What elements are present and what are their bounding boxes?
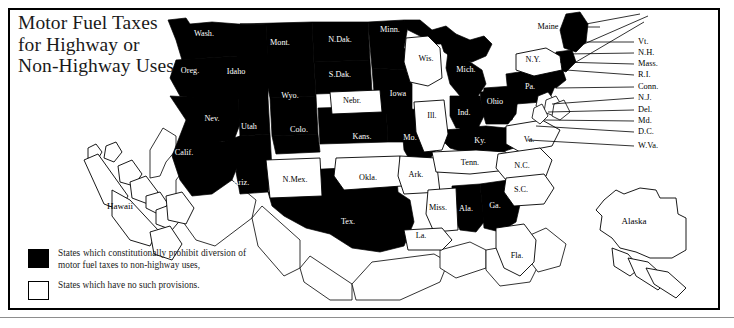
legend-label-no-provision: States which have no such provisions. bbox=[58, 280, 246, 292]
svg-text:Calif.: Calif. bbox=[175, 148, 193, 157]
svg-text:Mo.: Mo. bbox=[403, 133, 416, 142]
svg-text:Nev.: Nev. bbox=[204, 114, 219, 123]
svg-text:Tenn.: Tenn. bbox=[461, 158, 479, 167]
svg-text:N.H.: N.H. bbox=[638, 48, 654, 57]
callout-labels: Vt. N.H. Mass. R.I. Conn. N.J. Del. Md. … bbox=[638, 37, 658, 150]
svg-text:N.Mex.: N.Mex. bbox=[282, 175, 307, 184]
legend-swatch-black bbox=[28, 249, 49, 268]
svg-text:Wash.: Wash. bbox=[194, 29, 214, 38]
svg-text:Vt.: Vt. bbox=[638, 37, 648, 46]
svg-text:Miss.: Miss. bbox=[429, 203, 447, 212]
legend-row-prohibit: States which constitutionally prohibit d… bbox=[28, 248, 258, 271]
svg-text:R.I.: R.I. bbox=[638, 70, 651, 79]
svg-text:Md.: Md. bbox=[638, 116, 652, 125]
svg-text:N.J.: N.J. bbox=[638, 93, 652, 102]
svg-text:Mich.: Mich. bbox=[456, 65, 475, 74]
svg-text:Ill.: Ill. bbox=[427, 111, 436, 120]
svg-text:Conn.: Conn. bbox=[638, 82, 658, 91]
svg-text:Ark.: Ark. bbox=[409, 170, 424, 179]
svg-text:Ohio: Ohio bbox=[487, 97, 503, 106]
svg-text:Fla.: Fla. bbox=[511, 251, 524, 260]
legend-label-prohibit: States which constitutionally prohibit d… bbox=[58, 248, 246, 271]
svg-text:W.Va.: W.Va. bbox=[638, 141, 658, 150]
svg-text:Nebr.: Nebr. bbox=[343, 96, 361, 105]
svg-text:Mass.: Mass. bbox=[638, 59, 658, 68]
map-legend: States which constitutionally prohibit d… bbox=[28, 248, 258, 309]
svg-text:Del.: Del. bbox=[638, 105, 652, 114]
svg-text:Oreg.: Oreg. bbox=[181, 66, 199, 75]
alaska-label: Alaska bbox=[622, 216, 647, 226]
title-line-1: Motor Fuel Taxes bbox=[18, 12, 178, 34]
svg-text:Iowa: Iowa bbox=[390, 89, 407, 98]
svg-text:Pa.: Pa. bbox=[525, 82, 535, 91]
svg-text:Colo.: Colo. bbox=[290, 125, 308, 134]
alaska-inset bbox=[596, 188, 686, 298]
svg-text:S.Dak.: S.Dak. bbox=[329, 70, 351, 79]
page-title: Motor Fuel Taxes for Highway or Non-High… bbox=[18, 12, 178, 77]
svg-text:Ariz.: Ariz. bbox=[233, 178, 250, 187]
svg-text:Tex.: Tex. bbox=[341, 217, 355, 226]
svg-text:Ky.: Ky. bbox=[474, 136, 486, 145]
svg-text:Ala.: Ala. bbox=[459, 204, 473, 213]
svg-text:Maine: Maine bbox=[538, 22, 559, 31]
svg-text:Okla.: Okla. bbox=[359, 173, 377, 182]
hawaii-label: Hawaii bbox=[107, 201, 133, 211]
svg-text:Ind.: Ind. bbox=[458, 108, 471, 117]
svg-text:D.C.: D.C. bbox=[638, 127, 654, 136]
mid-atlantic-small-states bbox=[532, 92, 570, 124]
svg-text:Va.: Va. bbox=[524, 135, 535, 144]
svg-text:Wyo.: Wyo. bbox=[281, 91, 298, 100]
svg-text:Kans.: Kans. bbox=[353, 132, 372, 141]
svg-text:Wis.: Wis. bbox=[419, 54, 434, 63]
svg-text:Minn.: Minn. bbox=[380, 25, 400, 34]
svg-text:Idaho: Idaho bbox=[227, 67, 246, 76]
legend-row-no-provision: States which have no such provisions. bbox=[28, 280, 258, 300]
title-line-2: for Highway or bbox=[18, 34, 178, 56]
svg-text:Mont.: Mont. bbox=[270, 38, 290, 47]
svg-text:N.Y.: N.Y. bbox=[526, 55, 541, 64]
svg-text:N.Dak.: N.Dak. bbox=[328, 35, 352, 44]
title-line-3: Non-Highway Uses bbox=[18, 55, 178, 77]
svg-text:N.C.: N.C. bbox=[514, 161, 529, 170]
map-figure: Wash. Oreg. Idaho Mont. N.Dak. S.Dak. Mi… bbox=[0, 0, 734, 328]
svg-text:La.: La. bbox=[416, 231, 427, 240]
svg-text:S.C.: S.C. bbox=[514, 185, 528, 194]
legend-swatch-white bbox=[28, 281, 49, 300]
svg-text:Utah: Utah bbox=[241, 122, 257, 131]
svg-text:Ga.: Ga. bbox=[489, 201, 501, 210]
